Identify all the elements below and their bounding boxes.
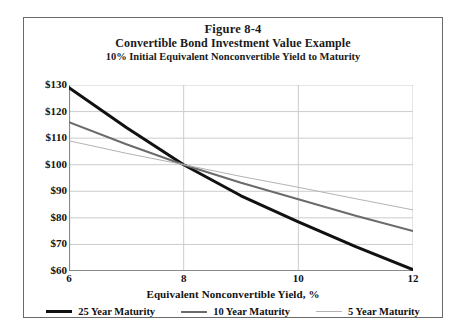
x-axis-tick-labels: 681012 [69,272,413,288]
legend-label-5-year: 5 Year Maturity [348,306,420,317]
axis-lines [69,85,413,271]
x-tick-label: 6 [66,272,72,284]
figure-title: Convertible Bond Investment Value Exampl… [24,36,442,50]
y-axis-tick-labels: $60$70$80$90$100$110$120$130 [24,78,67,278]
title-block: Figure 8-4 Convertible Bond Investment V… [24,22,442,63]
x-tick-label: 10 [293,272,304,284]
figure-number: Figure 8-4 [24,22,442,36]
y-tick-label: $100 [45,158,67,170]
legend-swatch-25-year [46,310,72,313]
legend-swatch-10-year [181,311,207,313]
chart-canvas [69,85,413,271]
y-tick-label: $80 [51,211,68,223]
y-tick-label: $110 [46,131,67,143]
legend-label-10-year: 10 Year Maturity [213,306,290,317]
y-tick-label: $120 [45,105,67,117]
y-tick-label: $60 [51,264,68,276]
y-tick-label: $130 [45,78,67,90]
data-series [69,88,413,270]
figure-subtitle: 10% Initial Equivalent Nonconvertible Yi… [24,50,442,63]
gridlines [69,85,413,271]
x-tick-label: 8 [181,272,187,284]
figure-frame: Figure 8-4 Convertible Bond Investment V… [23,17,443,318]
x-tick-label: 12 [408,272,419,284]
legend-label-25-year: 25 Year Maturity [78,306,155,317]
chart-legend: 25 Year Maturity 10 Year Maturity 5 Year… [24,306,442,317]
legend-swatch-5-year [316,311,342,312]
legend-item-5-year: 5 Year Maturity [316,306,420,317]
y-tick-label: $90 [51,184,68,196]
y-tick-label: $70 [51,237,68,249]
x-axis-label: Equivalent Nonconvertible Yield, % [24,288,442,300]
legend-item-10-year: 10 Year Maturity [181,306,290,317]
legend-item-25-year: 25 Year Maturity [46,306,155,317]
plot-area [69,85,413,271]
